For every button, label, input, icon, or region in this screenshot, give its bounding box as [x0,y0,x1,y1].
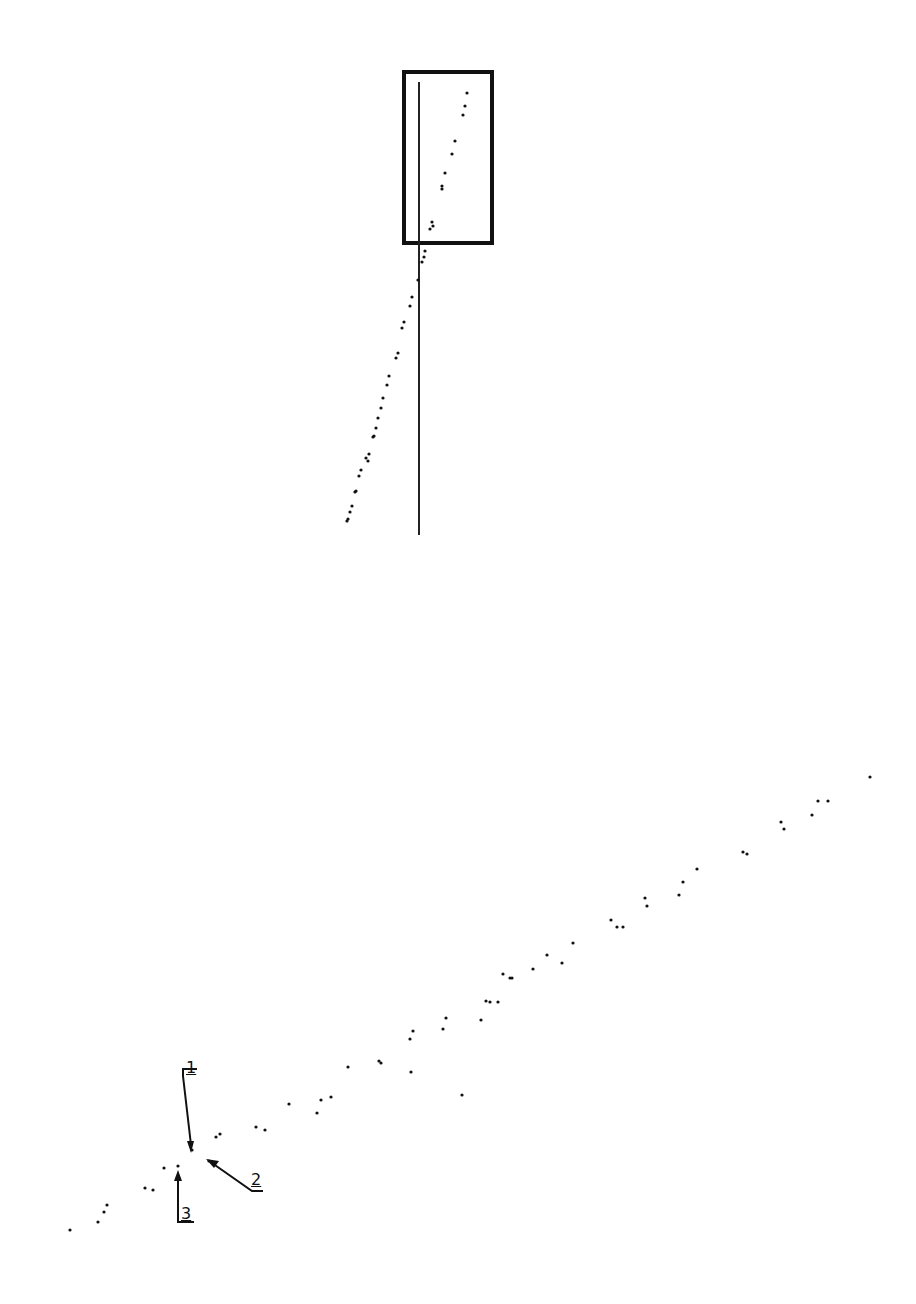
data-dot [420,260,423,263]
data-dot [571,941,574,944]
data-dot [409,1070,412,1073]
data-dot [463,104,466,107]
data-dot [353,490,356,493]
data-dot [868,775,871,778]
data-dot [484,999,487,1002]
data-dot [677,893,680,896]
callout-label-3: 3 [181,1204,191,1223]
data-dot [359,468,362,471]
data-dot [428,227,431,230]
data-dot [643,896,646,899]
data-dot [411,1029,414,1032]
data-dot [96,1220,99,1223]
data-dot [381,396,384,399]
data-dot [782,827,785,830]
data-dot [423,249,426,252]
data-dot [460,1093,463,1096]
data-dot [440,184,443,187]
data-dot [465,91,468,94]
top-data-dots [345,91,468,522]
data-dot [779,820,782,823]
data-dot [176,1164,179,1167]
data-dot [287,1102,290,1105]
data-dot [263,1128,266,1131]
data-dot [430,220,433,223]
data-dot [681,880,684,883]
data-dot [609,918,612,921]
data-dot [346,1065,349,1068]
data-dot [254,1125,257,1128]
data-dot [377,1059,380,1062]
data-dot [394,356,397,359]
data-dot [422,255,425,258]
data-dot [408,1037,411,1040]
data-dot [105,1203,108,1206]
data-dot [531,967,534,970]
patent-figure [0,0,916,1304]
data-dot [102,1210,105,1213]
data-dot [645,904,648,907]
data-dot [441,1027,444,1030]
data-dot [345,519,348,522]
data-dot [408,304,411,307]
data-dot [444,1016,447,1019]
data-dot [329,1095,332,1098]
data-dot [376,416,379,419]
data-dot [443,171,446,174]
data-dot [461,113,464,116]
data-dot [440,187,443,190]
data-dot [68,1228,71,1231]
data-dot [416,278,419,281]
data-dot [453,139,456,142]
data-dot [488,1000,491,1003]
data-dot [501,972,504,975]
data-dot [357,474,360,477]
data-dot [745,852,748,855]
data-dot [366,459,369,462]
data-dot [387,374,390,377]
data-dot [545,953,548,956]
bottom-data-dots [68,775,871,1231]
data-dot [402,320,405,323]
data-dot [162,1166,165,1169]
data-dot [510,976,513,979]
data-dot [371,435,374,438]
data-dot [374,426,377,429]
data-dot [214,1135,217,1138]
data-dot [151,1188,154,1191]
data-dot [400,326,403,329]
callout-label-2: 2 [251,1170,261,1189]
data-dot [315,1111,318,1114]
data-dot [615,925,618,928]
data-dot [810,813,813,816]
data-dot [695,867,698,870]
data-dot [479,1018,482,1021]
data-dot [560,961,563,964]
inset-frame [404,72,492,243]
data-dot [319,1098,322,1101]
data-dot [741,850,744,853]
bottom-panel [68,775,871,1231]
data-dot [621,925,624,928]
callout-label-1: 1 [186,1058,196,1077]
data-dot [396,351,399,354]
data-dot [496,1000,499,1003]
data-dot [367,452,370,455]
data-dot [450,152,453,155]
data-dot [379,406,382,409]
data-dot [826,799,829,802]
data-dot [143,1186,146,1189]
data-dot [350,504,353,507]
data-dot [431,224,434,227]
data-dot [348,510,351,513]
data-dot [364,456,367,459]
data-dot [410,295,413,298]
callout-1 [183,1069,197,1153]
data-dot [218,1132,221,1135]
data-dot [816,799,819,802]
top-panel [345,72,492,535]
data-dot [385,383,388,386]
